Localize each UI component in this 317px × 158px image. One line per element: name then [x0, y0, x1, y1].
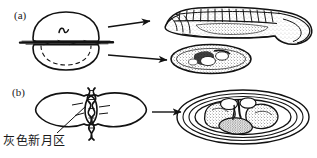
gray-crescent-label: 灰色新月区 — [3, 131, 66, 148]
gray-crescent-leader-line — [57, 106, 86, 133]
belly-piece-vacuole-1 — [201, 56, 216, 65]
gray-crescent-mark — [59, 28, 68, 32]
cleaving-egg-in-jelly — [177, 90, 309, 144]
egg-upper-half — [33, 12, 99, 41]
egg-lower-half — [33, 45, 99, 70]
belly-piece — [171, 45, 251, 74]
panel-label-a: (a) — [14, 9, 26, 21]
jelly-coat-outer — [177, 90, 309, 144]
arrow-to-larva — [108, 21, 150, 27]
belly-piece-vacuole-2 — [216, 52, 229, 60]
blastomere-top-small-2 — [240, 98, 256, 108]
normal-larva — [165, 7, 312, 44]
gray-crescent-dashed-outline — [41, 46, 91, 66]
arrow-to-belly-piece — [108, 55, 167, 60]
panel-a-egg-group — [20, 12, 113, 70]
blastomere-bottom — [219, 118, 252, 134]
panel-a-arrows — [108, 21, 167, 60]
panel-label-b: (b) — [12, 86, 25, 98]
hair-ligature-a — [20, 40, 113, 45]
figure-canvas: (a) (b) 灰色新月区 — [0, 0, 317, 158]
belly-piece-vacuole-3 — [189, 59, 198, 65]
